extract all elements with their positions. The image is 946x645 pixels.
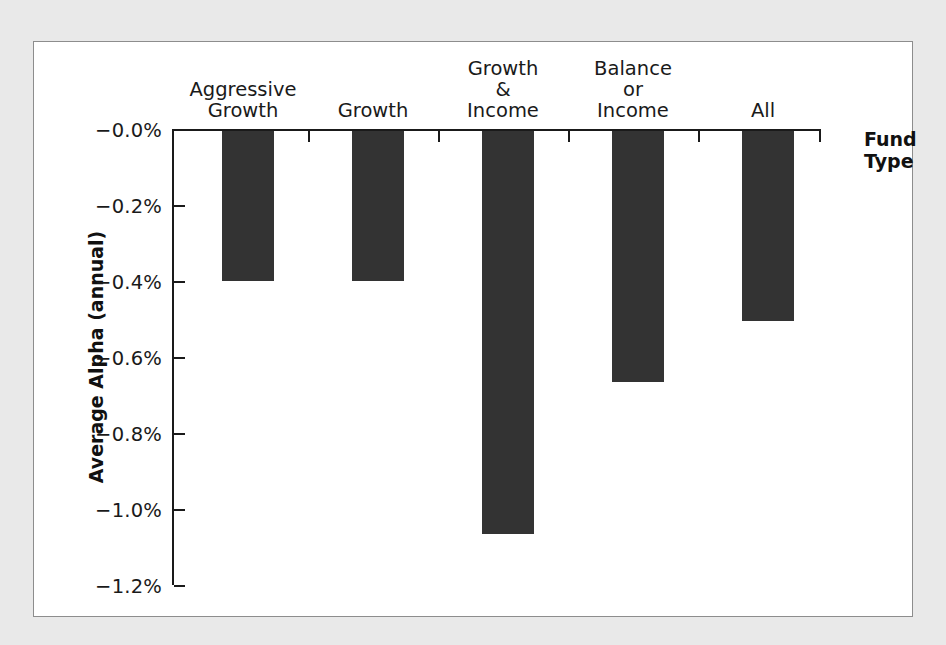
bar-3[interactable] [612, 131, 664, 382]
bar-4[interactable] [742, 131, 794, 321]
y-tick-label-5: −1.0% [95, 499, 162, 522]
bar-0[interactable] [222, 131, 274, 281]
plot-area: −0.0% −0.2% −0.4% −0.6% −0.8% −1.0% [172, 129, 821, 585]
y-tick-label-0: −0.0% [95, 119, 162, 142]
y-tick-label-4: −0.8% [95, 423, 162, 446]
x-category-label-0: Aggressive Growth [190, 79, 297, 121]
bar-2[interactable] [482, 131, 534, 534]
y-tick-label-6: −1.2% [95, 575, 162, 598]
bar-group-2: Growth & Income [438, 129, 568, 585]
bar-1[interactable] [352, 131, 404, 281]
bar-group-0: Aggressive Growth [178, 129, 308, 585]
y-tick-6: −1.2% [172, 585, 185, 587]
x-axis-title: Fund Type [864, 128, 944, 172]
bar-group-1: Growth [308, 129, 438, 585]
y-tick-label-2: −0.4% [95, 271, 162, 294]
x-category-label-3: Balance or Income [594, 58, 672, 121]
x-category-label-2: Growth & Income [467, 58, 539, 121]
y-tick-label-3: −0.6% [95, 347, 162, 370]
figure-root: Average Alpha (annual) Fund Type −0.0% −… [0, 0, 946, 645]
bar-group-4: All [698, 129, 828, 585]
x-category-label-1: Growth [338, 100, 409, 121]
y-tick-label-1: −0.2% [95, 195, 162, 218]
x-category-label-4: All [751, 100, 775, 121]
y-tick-mark-6 [174, 585, 185, 587]
bar-group-3: Balance or Income [568, 129, 698, 585]
chart-panel: Average Alpha (annual) Fund Type −0.0% −… [33, 41, 913, 617]
